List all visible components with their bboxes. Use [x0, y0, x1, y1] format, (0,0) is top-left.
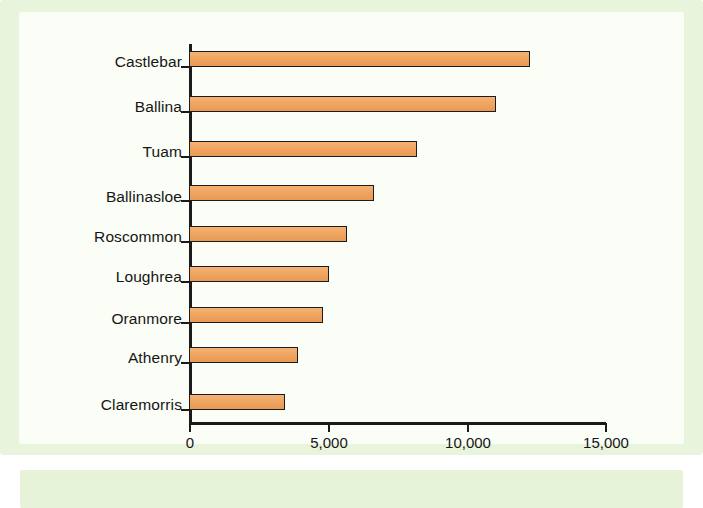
- x-axis-label-5000: 5,000: [310, 434, 348, 451]
- category-label-tuam: Tuam: [143, 143, 182, 161]
- page-tint-bottom-band: [20, 470, 683, 508]
- bar-loughrea: [189, 266, 329, 282]
- category-label-ballina: Ballina: [135, 98, 182, 116]
- x-axis-line: [189, 422, 606, 425]
- bar-chart-plot: Castlebar Ballina Tuam Ballinasloe Rosco…: [0, 0, 703, 455]
- chart-page: Castlebar Ballina Tuam Ballinasloe Rosco…: [0, 0, 703, 508]
- x-axis-label-10000: 10,000: [445, 434, 491, 451]
- x-axis-tick-5000: [328, 423, 330, 432]
- category-label-column: Castlebar Ballina Tuam Ballinasloe Rosco…: [40, 0, 182, 430]
- x-axis-tick-15000: [605, 423, 607, 432]
- category-label-loughrea: Loughrea: [116, 268, 182, 286]
- x-axis-tick-0: [189, 423, 191, 432]
- category-label-ballinasloe: Ballinasloe: [106, 188, 182, 206]
- bar-tuam: [189, 141, 417, 157]
- category-label-claremorris: Claremorris: [101, 396, 182, 414]
- category-label-athenry: Athenry: [128, 349, 182, 367]
- bar-ballinasloe: [189, 185, 374, 201]
- category-label-roscommon: Roscommon: [94, 228, 182, 246]
- x-axis-label-15000: 15,000: [583, 434, 629, 451]
- bar-ballina: [189, 96, 496, 112]
- bar-castlebar: [189, 51, 530, 67]
- category-label-oranmore: Oranmore: [111, 310, 182, 328]
- bar-athenry: [189, 347, 298, 363]
- bar-oranmore: [189, 307, 323, 323]
- x-axis-label-0: 0: [186, 434, 194, 451]
- x-axis-tick-10000: [467, 423, 469, 432]
- category-label-castlebar: Castlebar: [115, 53, 182, 71]
- bar-claremorris: [189, 394, 285, 410]
- bar-roscommon: [189, 226, 347, 242]
